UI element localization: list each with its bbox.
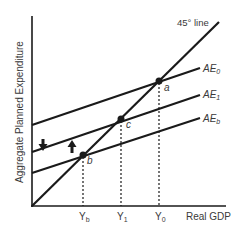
ae-diagram: Aggregate Planned Expenditure 45° line A… — [0, 0, 236, 236]
ae1-curve — [32, 95, 200, 152]
ae0-label: AE0 — [202, 63, 220, 75]
point-c-label: c — [126, 119, 131, 130]
ae1-label: AE1 — [202, 89, 220, 101]
x-axis-label: Real GDP — [186, 211, 231, 222]
ae0-curve — [32, 68, 200, 125]
tick-yb: Yb — [79, 211, 90, 223]
tick-y1: Y1 — [117, 211, 128, 223]
line-45-degree — [32, 22, 219, 206]
point-a-label: a — [164, 82, 170, 93]
y-axis-label: Aggregate Planned Expenditure — [14, 41, 25, 183]
tick-y0: Y0 — [155, 211, 166, 223]
point-c — [118, 116, 125, 123]
line-45-label: 45° line — [177, 17, 209, 28]
point-a — [156, 78, 163, 85]
point-b — [80, 152, 87, 159]
point-b-label: b — [87, 155, 93, 166]
aeb-label: AEb — [202, 113, 220, 125]
up-arrow-icon — [68, 140, 77, 153]
aeb-curve — [32, 118, 200, 173]
